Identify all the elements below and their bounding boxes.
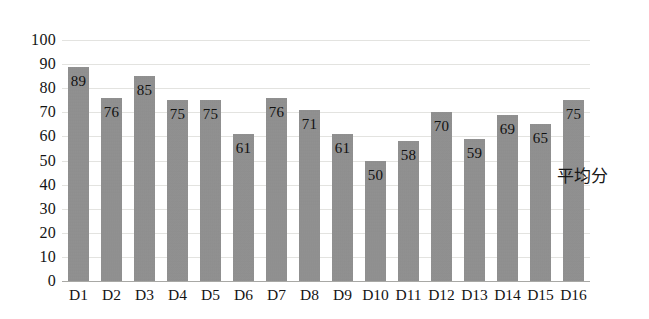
y-axis-tick-label: 50: [10, 153, 56, 169]
bar-slot: 58: [392, 40, 425, 281]
bar[interactable]: [299, 110, 320, 281]
bar-slot: 69: [491, 40, 524, 281]
y-axis-tick-label: 10: [10, 249, 56, 265]
x-axis-tick-label: D8: [293, 286, 326, 304]
x-axis: D1D2D3D4D5D6D7D8D9D10D11D12D13D14D15D16: [62, 284, 590, 308]
y-axis-tick-label: 60: [10, 128, 56, 144]
bar[interactable]: [332, 134, 353, 281]
y-axis-tick-label: 100: [10, 32, 56, 48]
bar-value-label: 75: [161, 107, 194, 122]
bar-value-label: 58: [392, 148, 425, 163]
bar-slot: 76: [95, 40, 128, 281]
axis-baseline: [62, 281, 590, 282]
x-axis-tick-label: D7: [260, 286, 293, 304]
y-axis-tick-label: 80: [10, 80, 56, 96]
bar-slot: 59: [458, 40, 491, 281]
bar-slot: 75: [194, 40, 227, 281]
bar[interactable]: [530, 124, 551, 281]
x-axis-tick-label: D6: [227, 286, 260, 304]
x-axis-tick-label: D1: [62, 286, 95, 304]
bar-slot: 76: [260, 40, 293, 281]
bar-slot: 75: [161, 40, 194, 281]
bar-value-label: 61: [326, 141, 359, 156]
x-axis-tick-label: D16: [557, 286, 590, 304]
x-axis-tick-label: D4: [161, 286, 194, 304]
bar-slot: 89: [62, 40, 95, 281]
bar-value-label: 76: [260, 105, 293, 120]
bar-value-label: 50: [359, 168, 392, 183]
x-axis-tick-label: D13: [458, 286, 491, 304]
bar[interactable]: [200, 100, 221, 281]
bar-slot: 65: [524, 40, 557, 281]
y-axis-tick-label: 90: [10, 56, 56, 72]
bar[interactable]: [101, 98, 122, 281]
x-axis-tick-label: D12: [425, 286, 458, 304]
x-axis-tick-label: D10: [359, 286, 392, 304]
x-axis-tick-label: D9: [326, 286, 359, 304]
bar-slot: 50: [359, 40, 392, 281]
bar-value-label: 70: [425, 119, 458, 134]
x-axis-tick-label: D11: [392, 286, 425, 304]
bar[interactable]: [266, 98, 287, 281]
bar-value-label: 75: [194, 107, 227, 122]
x-axis-tick-label: D15: [524, 286, 557, 304]
y-axis-tick-label: 0: [10, 273, 56, 289]
x-axis-tick-label: D14: [491, 286, 524, 304]
bar[interactable]: [134, 76, 155, 281]
bar[interactable]: [167, 100, 188, 281]
bar-value-label: 85: [128, 83, 161, 98]
bar-slot: 75: [557, 40, 590, 281]
bar-slot: 61: [227, 40, 260, 281]
y-axis: 1009080706050403020100: [6, 40, 56, 281]
bar-chart: 1009080706050403020100 89768575756176716…: [0, 0, 649, 319]
bar-slot: 61: [326, 40, 359, 281]
bar-value-label: 59: [458, 146, 491, 161]
x-axis-tick-label: D3: [128, 286, 161, 304]
x-axis-tick-label: D5: [194, 286, 227, 304]
bar-slot: 70: [425, 40, 458, 281]
bar-slot: 71: [293, 40, 326, 281]
bar[interactable]: [431, 112, 452, 281]
bar-slot: 85: [128, 40, 161, 281]
bar-value-label: 89: [62, 74, 95, 89]
series-annotation-label: 平均分: [557, 166, 608, 186]
bar[interactable]: [497, 115, 518, 281]
y-axis-tick-label: 40: [10, 177, 56, 193]
bar-value-label: 76: [95, 105, 128, 120]
plot-area: 89768575756176716150587059696575: [62, 40, 590, 281]
bar-value-label: 71: [293, 117, 326, 132]
bar[interactable]: [233, 134, 254, 281]
bar[interactable]: [563, 100, 584, 281]
bar[interactable]: [68, 67, 89, 281]
bar-value-label: 69: [491, 122, 524, 137]
y-axis-tick-label: 70: [10, 104, 56, 120]
bar-value-label: 75: [557, 107, 590, 122]
bar-value-label: 65: [524, 131, 557, 146]
y-axis-tick-label: 30: [10, 201, 56, 217]
bar-value-label: 61: [227, 141, 260, 156]
x-axis-tick-label: D2: [95, 286, 128, 304]
y-axis-tick-label: 20: [10, 225, 56, 241]
